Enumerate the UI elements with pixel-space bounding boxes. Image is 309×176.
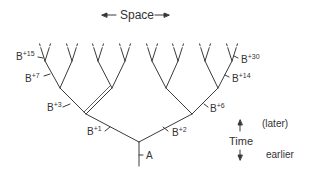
label-B-plus-2: B+2 bbox=[172, 128, 187, 138]
label-B-plus-6: B+6 bbox=[210, 104, 225, 114]
time-axis-label: Time bbox=[229, 135, 253, 147]
time-later-label: (later) bbox=[262, 119, 288, 129]
space-label: Space bbox=[120, 9, 154, 21]
label-B-plus-15: B+15 bbox=[16, 52, 35, 62]
label-B-plus-3: B+3 bbox=[47, 103, 62, 113]
branching-tree-diagram bbox=[0, 0, 309, 176]
label-A: A bbox=[146, 151, 153, 161]
label-B-plus-7: B+7 bbox=[25, 74, 40, 84]
time-earlier-label: earlier bbox=[266, 150, 294, 160]
label-B-plus-14: B+14 bbox=[232, 74, 251, 84]
label-B-plus-1: B+1 bbox=[87, 127, 102, 137]
label-B-plus-30: B+30 bbox=[241, 55, 260, 65]
